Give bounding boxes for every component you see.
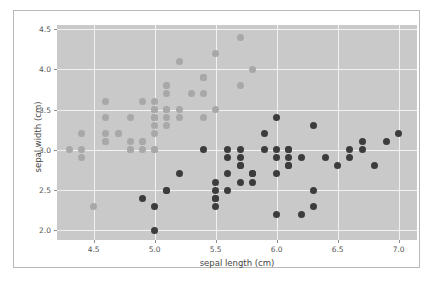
y-tick-mark	[54, 69, 57, 70]
data-point-versicolor	[224, 170, 231, 177]
data-point-setosa	[102, 138, 109, 145]
data-point-versicolor	[359, 138, 366, 145]
y-axis-label: sepal width (cm)	[33, 67, 43, 207]
y-tick-mark	[54, 230, 57, 231]
data-point-setosa	[78, 130, 85, 137]
data-point-versicolor	[237, 179, 244, 186]
data-point-setosa	[163, 90, 170, 97]
y-gridline	[57, 190, 417, 191]
data-point-setosa	[151, 106, 158, 113]
data-point-versicolor	[322, 154, 329, 161]
data-point-setosa	[249, 66, 256, 73]
data-point-setosa	[200, 74, 207, 81]
data-point-versicolor	[249, 170, 256, 177]
y-tick-mark	[54, 29, 57, 30]
data-point-versicolor	[273, 211, 280, 218]
data-point-versicolor	[237, 162, 244, 169]
data-point-setosa	[115, 130, 122, 137]
data-point-setosa	[188, 90, 195, 97]
y-gridline	[57, 110, 417, 111]
data-point-versicolor	[298, 154, 305, 161]
x-tick-mark	[399, 240, 400, 243]
data-point-versicolor	[395, 130, 402, 137]
data-point-versicolor	[151, 227, 158, 234]
data-point-setosa	[151, 98, 158, 105]
data-point-versicolor	[224, 187, 231, 194]
x-tick-label: 4.5	[88, 245, 100, 254]
data-point-setosa	[237, 34, 244, 41]
x-tick-mark	[94, 240, 95, 243]
x-tick-label: 7.0	[393, 245, 405, 254]
data-point-versicolor	[346, 154, 353, 161]
data-point-versicolor	[273, 170, 280, 177]
data-point-versicolor	[359, 146, 366, 153]
x-tick-label: 6.0	[271, 245, 283, 254]
y-tick-label: 2.0	[31, 226, 51, 235]
x-tick-label: 5.0	[149, 245, 161, 254]
figure-frame: 4.55.05.56.06.57.02.02.53.03.54.04.5 sep…	[13, 10, 420, 268]
data-point-versicolor	[212, 179, 219, 186]
data-point-setosa	[163, 82, 170, 89]
data-point-setosa	[102, 114, 109, 121]
data-point-setosa	[163, 114, 170, 121]
data-point-versicolor	[237, 154, 244, 161]
data-point-versicolor	[273, 154, 280, 161]
data-point-versicolor	[249, 179, 256, 186]
data-point-setosa	[151, 122, 158, 129]
plot-area	[57, 25, 417, 240]
data-point-versicolor	[139, 195, 146, 202]
y-tick-mark	[54, 110, 57, 111]
data-point-versicolor	[212, 187, 219, 194]
x-axis-label: sepal length (cm)	[57, 258, 417, 268]
data-point-setosa	[176, 106, 183, 113]
data-point-setosa	[127, 114, 134, 121]
data-point-versicolor	[310, 203, 317, 210]
x-gridline	[338, 25, 339, 240]
data-point-setosa	[90, 203, 97, 210]
data-point-setosa	[139, 146, 146, 153]
x-tick-mark	[155, 240, 156, 243]
y-tick-label: 4.5	[31, 25, 51, 34]
data-point-setosa	[200, 114, 207, 121]
data-point-setosa	[163, 106, 170, 113]
data-point-versicolor	[310, 187, 317, 194]
data-point-versicolor	[261, 146, 268, 153]
data-point-versicolor	[383, 138, 390, 145]
data-point-versicolor	[237, 146, 244, 153]
y-tick-mark	[54, 150, 57, 151]
data-point-versicolor	[273, 114, 280, 121]
data-point-versicolor	[224, 146, 231, 153]
data-point-versicolor	[310, 122, 317, 129]
data-point-versicolor	[285, 162, 292, 169]
data-point-setosa	[127, 146, 134, 153]
data-point-versicolor	[163, 187, 170, 194]
data-point-setosa	[102, 98, 109, 105]
data-point-setosa	[78, 146, 85, 153]
data-point-versicolor	[224, 154, 231, 161]
data-point-versicolor	[151, 203, 158, 210]
data-point-setosa	[176, 58, 183, 65]
x-tick-mark	[216, 240, 217, 243]
data-point-setosa	[102, 130, 109, 137]
data-point-versicolor	[261, 130, 268, 137]
data-point-setosa	[176, 114, 183, 121]
data-point-setosa	[163, 122, 170, 129]
data-point-versicolor	[334, 162, 341, 169]
data-point-versicolor	[212, 203, 219, 210]
data-point-setosa	[139, 98, 146, 105]
x-tick-mark	[338, 240, 339, 243]
data-point-versicolor	[285, 154, 292, 161]
data-point-versicolor	[176, 170, 183, 177]
y-tick-mark	[54, 190, 57, 191]
x-tick-mark	[277, 240, 278, 243]
y-gridline	[57, 230, 417, 231]
data-point-setosa	[212, 106, 219, 113]
data-point-setosa	[139, 138, 146, 145]
data-point-setosa	[151, 146, 158, 153]
x-gridline	[277, 25, 278, 240]
data-point-versicolor	[273, 146, 280, 153]
y-gridline	[57, 29, 417, 30]
data-point-versicolor	[371, 162, 378, 169]
data-point-setosa	[66, 146, 73, 153]
data-point-versicolor	[298, 211, 305, 218]
